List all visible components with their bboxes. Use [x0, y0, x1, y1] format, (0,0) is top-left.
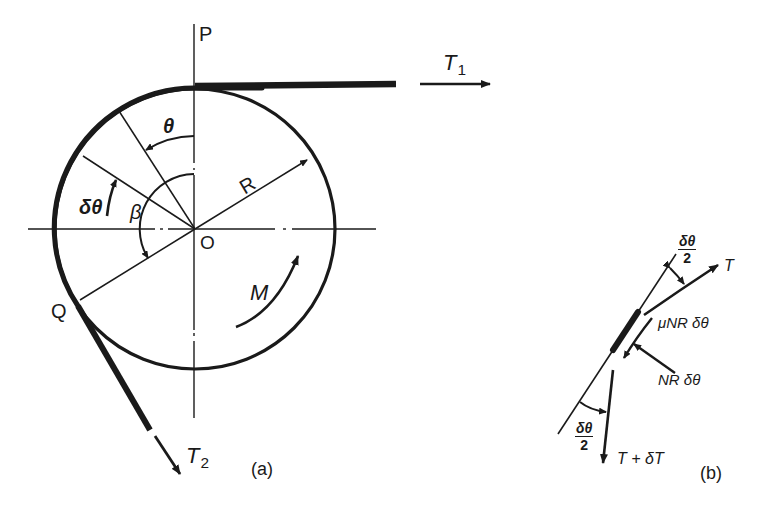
label-t2: T2	[186, 445, 209, 467]
panel-a-drawing	[0, 0, 758, 508]
normal-force-arrow	[634, 344, 675, 373]
delta-theta-arrow	[107, 180, 116, 216]
caption-b: (b)	[700, 464, 722, 482]
radius-line-q	[80, 229, 195, 300]
label-half-angle-bottom: δθ 2	[575, 421, 593, 452]
t-force-arrow	[644, 265, 718, 315]
bottom-half-angle-arc	[580, 402, 606, 412]
label-half-angle-top: δθ 2	[678, 234, 696, 265]
label-m: M	[250, 282, 268, 304]
top-half-angle-arc	[670, 268, 684, 284]
label-beta: β	[130, 202, 141, 222]
label-q: Q	[51, 301, 67, 321]
t2-force-arrow	[155, 436, 180, 474]
label-normal-force: NR δθ	[658, 372, 700, 387]
label-t: T	[724, 258, 734, 274]
t-plus-dt-force-arrow	[603, 370, 613, 463]
label-t-plus-dt: T + δT	[617, 451, 664, 467]
belt-tight-side	[195, 84, 396, 86]
label-friction-force: μNR δθ	[658, 315, 709, 330]
belt-slack-side	[78, 306, 150, 430]
belt-friction-figure: P O Q R θ δθ β M T1 T2 (a) δθ 2 T μNR δθ…	[0, 0, 758, 508]
caption-a: (a)	[251, 460, 273, 478]
label-p: P	[199, 24, 212, 44]
label-o: O	[200, 233, 215, 252]
label-theta: θ	[163, 116, 174, 136]
theta-angle-arc	[146, 136, 194, 150]
label-delta-theta: δθ	[79, 197, 102, 217]
label-t1: T1	[443, 52, 466, 74]
